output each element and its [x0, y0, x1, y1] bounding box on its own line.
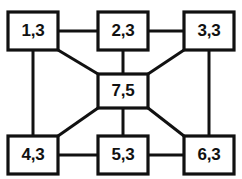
node-label-bottom-center: 5,3	[111, 145, 134, 164]
node-label-center: 7,5	[111, 81, 134, 100]
node-layer: 1,32,33,37,54,35,36,3	[8, 12, 234, 174]
node-bottom-left[interactable]: 4,3	[8, 136, 58, 174]
node-center[interactable]: 7,5	[98, 74, 148, 108]
node-bottom-center[interactable]: 5,3	[98, 136, 148, 174]
node-label-top-right: 3,3	[197, 21, 220, 40]
node-label-top-left: 1,3	[21, 21, 44, 40]
node-label-top-center: 2,3	[111, 21, 134, 40]
node-top-left[interactable]: 1,3	[8, 12, 58, 50]
edge-1-3-to-7-5	[58, 50, 98, 74]
node-top-center[interactable]: 2,3	[98, 12, 148, 50]
edge-4-3-to-7-5	[58, 108, 98, 136]
node-label-bottom-right: 6,3	[197, 145, 220, 164]
node-label-bottom-left: 4,3	[21, 145, 44, 164]
edge-6-3-to-7-5	[148, 108, 184, 136]
graph-diagram: 1,32,33,37,54,35,36,3	[0, 0, 242, 179]
edge-3-3-to-7-5	[148, 50, 184, 74]
node-top-right[interactable]: 3,3	[184, 12, 234, 50]
node-bottom-right[interactable]: 6,3	[184, 136, 234, 174]
graph-canvas: 1,32,33,37,54,35,36,3	[0, 0, 242, 179]
